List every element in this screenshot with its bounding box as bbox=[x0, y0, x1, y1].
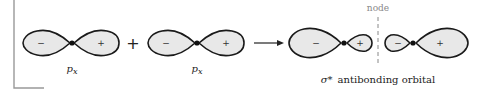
lobe-sign-negative: − bbox=[162, 38, 170, 48]
sigma-star-orbital: − + node − + σ*antibonding orbital bbox=[289, 3, 468, 85]
px-orbital-2: − + px bbox=[148, 30, 244, 76]
sigma-star-antibonding-diagram: − + px + − + px − + node − + σ*antibo bbox=[0, 0, 483, 92]
lobe-sign-positive: + bbox=[436, 38, 444, 48]
reaction-arrow bbox=[254, 40, 284, 46]
arrow-head-icon bbox=[277, 40, 284, 46]
px-orbital-1: − + px bbox=[23, 30, 119, 76]
lobe-sign-positive: + bbox=[356, 38, 364, 48]
orbital-lobe-negative bbox=[148, 30, 195, 55]
lobe-sign-negative: − bbox=[37, 38, 45, 48]
lobe-sign-negative: − bbox=[312, 38, 320, 48]
lobe-sign-positive: + bbox=[222, 38, 230, 48]
plus-operator: + bbox=[126, 34, 139, 53]
nucleus-dot bbox=[194, 40, 199, 45]
lobe-sign-negative: − bbox=[394, 38, 402, 48]
nucleus-dot bbox=[69, 40, 74, 45]
node-label: node bbox=[367, 3, 389, 13]
px-label-2: px bbox=[192, 63, 203, 76]
nucleus-dot bbox=[341, 40, 346, 45]
lobe-sign-positive: + bbox=[97, 38, 105, 48]
sigma-star-label: σ*antibonding orbital bbox=[321, 74, 436, 85]
orbital-lobe-negative bbox=[23, 30, 70, 55]
nucleus-dot bbox=[410, 40, 415, 45]
px-label-1: px bbox=[67, 63, 78, 76]
